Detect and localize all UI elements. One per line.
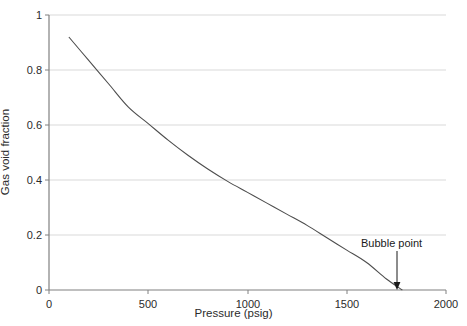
annotation-bubble-point-label: Bubble point (361, 238, 422, 249)
y-tick-label-0-6: 0.6 (10, 120, 42, 131)
annotation-arrow (394, 251, 401, 290)
plot-area (0, 0, 467, 326)
chart-figure: 1 0.8 0.6 0.4 0.2 0 0 500 1000 1500 2000… (0, 0, 467, 326)
gridlines (49, 15, 446, 235)
x-axis-title: Pressure (psig) (0, 308, 467, 320)
y-tick-label-0-8: 0.8 (10, 65, 42, 76)
y-tick-label-1: 1 (10, 10, 42, 21)
y-tick-label-0-2: 0.2 (10, 230, 42, 241)
y-tick-label-0: 0 (10, 285, 42, 296)
y-axis-title: Gas void fraction (0, 109, 12, 195)
arrow-head (394, 282, 401, 290)
data-series-line (69, 37, 402, 290)
y-tick-label-0-4: 0.4 (10, 175, 42, 186)
